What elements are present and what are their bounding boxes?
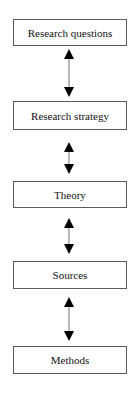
bidirectional-arrow-icon xyxy=(63,142,75,174)
node-label: Theory xyxy=(54,189,86,201)
node-label: Methods xyxy=(51,354,90,366)
bidirectional-arrow-icon xyxy=(63,218,75,254)
node-research-questions: Research questions xyxy=(13,19,127,46)
node-theory: Theory xyxy=(13,181,127,208)
node-research-strategy: Research strategy xyxy=(13,101,127,130)
bidirectional-arrow-icon xyxy=(63,49,75,97)
node-label: Sources xyxy=(53,269,88,281)
node-label: Research strategy xyxy=(31,110,109,122)
bidirectional-arrow-icon xyxy=(63,297,75,341)
node-sources: Sources xyxy=(13,261,127,289)
node-label: Research questions xyxy=(28,27,113,39)
node-methods: Methods xyxy=(13,346,127,374)
